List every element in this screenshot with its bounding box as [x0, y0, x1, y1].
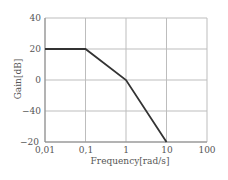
x-tick-label: 0,01 [30, 145, 60, 155]
y-axis-title: Gain[dB] [13, 49, 23, 109]
x-tick-label: 1 [111, 145, 141, 155]
x-tick-label: 100 [192, 145, 222, 155]
x-axis-title: Frequency[rad/s] [80, 156, 180, 166]
bode-gain-chart: 40 20 0 −40 −20 0,01 0,1 1 10 100 Freque… [0, 0, 228, 180]
x-tick-label: 10 [152, 145, 182, 155]
y-tick-label: 40 [15, 13, 41, 23]
gain-curve [45, 49, 167, 142]
x-tick-label: 0,1 [71, 145, 101, 155]
